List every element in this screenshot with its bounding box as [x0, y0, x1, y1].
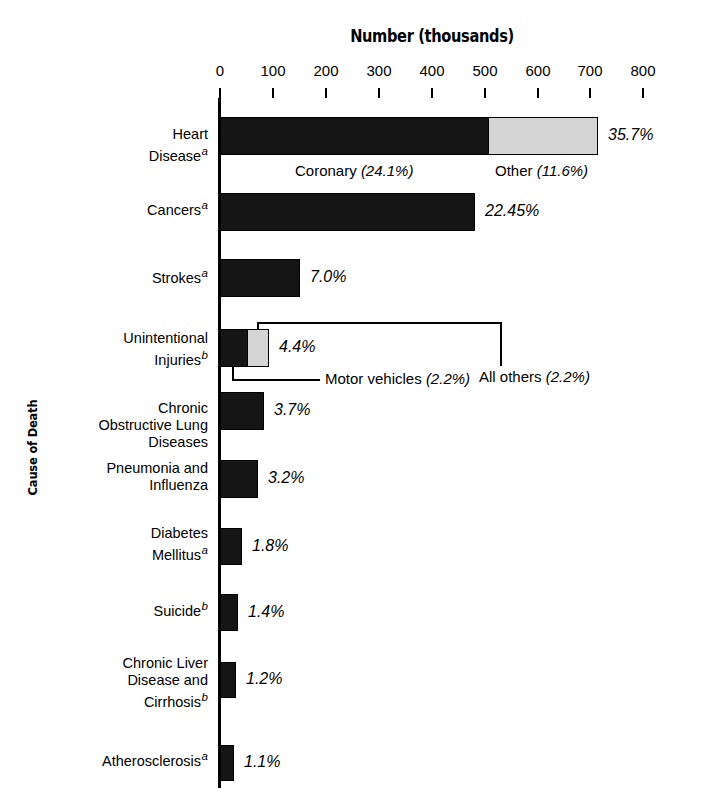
bar-value-label-strokes: 7.0% [310, 268, 346, 286]
category-label-line3: Cirrhosis [144, 694, 201, 710]
bar-segment-motor-vehicles [220, 329, 248, 367]
category-label-line2: Injuries [154, 352, 201, 368]
callout-line-all-others-horizontal [257, 322, 501, 324]
segment-caption-coronary: Coronary (24.1%) [295, 162, 413, 179]
category-label-line2: Influenza [149, 477, 208, 493]
x-tick-label-600: 600 [518, 62, 558, 79]
bar-segment-coronary [220, 117, 489, 155]
footnote-marker: b [201, 691, 208, 703]
category-label-line2: Obstructive Lung [98, 417, 208, 433]
footnote-marker: b [201, 349, 208, 361]
chart-title: Number (thousands) [250, 26, 615, 46]
x-tick-mark-100 [272, 88, 274, 98]
x-tick-label-400: 400 [412, 62, 452, 79]
x-tick-label-200: 200 [306, 62, 346, 79]
category-label-line1: Unintentional [123, 330, 208, 346]
category-label-line1: Chronic [158, 400, 208, 416]
bar-segment-all-others [247, 329, 269, 367]
x-tick-label-700: 700 [570, 62, 610, 79]
footnote-marker: b [201, 600, 208, 612]
footnote-marker: a [201, 544, 208, 556]
category-label-cancers: Cancersa [40, 197, 208, 219]
bar-segment-suicide [220, 594, 238, 631]
x-tick-mark-800 [642, 88, 644, 98]
segment-caption-other: Other (11.6%) [495, 162, 588, 179]
bar-value-label-heart-disease: 35.7% [608, 126, 653, 144]
x-tick-mark-500 [484, 88, 486, 98]
bar-value-label-diabetes-mellitus: 1.8% [252, 537, 288, 555]
bar-segment-pneumonia-influenza [220, 460, 258, 498]
bar-value-label-atherosclerosis: 1.1% [244, 753, 280, 771]
footnote-marker: a [201, 199, 208, 211]
footnote-marker: a [201, 750, 208, 762]
y-axis-title: Cause of Death [25, 377, 40, 518]
bar-value-label-pneumonia-influenza: 3.2% [268, 469, 304, 487]
category-label-pneumonia-influenza: Pneumonia and Influenza [40, 460, 208, 494]
x-tick-mark-0 [219, 88, 221, 98]
callout-label-motor-vehicles: Motor vehicles (2.2%) [325, 370, 470, 387]
category-label-atherosclerosis: Atherosclerosisa [40, 748, 208, 770]
bar-segment-cancers [220, 193, 475, 231]
category-label-unintentional-injuries: Unintentional Injuriesb [40, 330, 208, 369]
x-tick-label-0: 0 [200, 62, 240, 79]
callout-line-motor-vehicles-vertical [232, 366, 234, 380]
bar-segment-copd [220, 392, 264, 430]
bar-value-label-suicide: 1.4% [248, 603, 284, 621]
bar-segment-strokes [220, 259, 300, 297]
bar-value-label-cancers: 22.45% [485, 202, 539, 220]
category-label-line2: Disease and [127, 672, 208, 688]
x-tick-label-500: 500 [465, 62, 505, 79]
category-label-chronic-liver-disease: Chronic Liver Disease and Cirrhosisb [40, 655, 208, 711]
category-label-line1: Atherosclerosis [102, 753, 201, 769]
callout-label-motor-vehicles-pct: (2.2%) [426, 370, 470, 387]
category-label-line1: Cancers [147, 202, 201, 218]
x-tick-mark-400 [431, 88, 433, 98]
segment-caption-other-pct: (11.6%) [537, 162, 588, 179]
callout-label-all-others-pct: (2.2%) [546, 368, 590, 385]
callout-label-all-others: All others (2.2%) [479, 368, 590, 385]
bar-value-label-unintentional-injuries: 4.4% [279, 338, 315, 356]
category-label-diabetes-mellitus: Diabetes Mellitusa [40, 525, 208, 564]
bar-value-label-copd: 3.7% [274, 401, 310, 419]
category-label-line2: Disease [149, 148, 201, 164]
category-label-line1: Strokes [152, 270, 201, 286]
footnote-marker: a [201, 267, 208, 279]
category-label-line1: Diabetes [151, 525, 208, 541]
callout-line-motor-vehicles-horizontal [232, 379, 320, 381]
category-label-line2: Mellitus [152, 547, 201, 563]
bar-chart: Number (thousands) Cause of Death 0 100 … [0, 0, 710, 805]
bar-segment-chronic-liver-disease [220, 662, 236, 698]
category-label-strokes: Strokesa [40, 265, 208, 287]
category-label-heart-disease: Heart Diseasea [40, 126, 208, 165]
segment-caption-coronary-pct: (24.1%) [361, 162, 414, 179]
x-tick-label-300: 300 [359, 62, 399, 79]
callout-label-all-others-name: All others [479, 368, 542, 385]
segment-caption-coronary-name: Coronary [295, 162, 357, 179]
category-label-suicide: Suicideb [40, 598, 208, 620]
callout-line-all-others-vertical [500, 322, 502, 366]
x-tick-mark-700 [589, 88, 591, 98]
category-label-line1: Pneumonia and [106, 460, 208, 476]
x-tick-label-800: 800 [623, 62, 663, 79]
category-label-line3: Diseases [148, 434, 208, 450]
callout-label-motor-vehicles-name: Motor vehicles [325, 370, 422, 387]
bar-segment-atherosclerosis [220, 745, 234, 781]
category-label-line1: Chronic Liver [123, 655, 208, 671]
category-label-line1: Suicide [154, 603, 202, 619]
x-tick-mark-200 [325, 88, 327, 98]
segment-caption-other-name: Other [495, 162, 533, 179]
category-label-copd: Chronic Obstructive Lung Diseases [40, 400, 208, 451]
bar-value-label-chronic-liver-disease: 1.2% [246, 670, 282, 688]
bar-segment-diabetes-mellitus [220, 528, 242, 565]
category-label-line1: Heart [173, 126, 208, 142]
x-tick-mark-600 [537, 88, 539, 98]
x-tick-mark-300 [378, 88, 380, 98]
x-tick-label-100: 100 [253, 62, 293, 79]
footnote-marker: a [201, 145, 208, 157]
bar-segment-other [488, 117, 598, 155]
